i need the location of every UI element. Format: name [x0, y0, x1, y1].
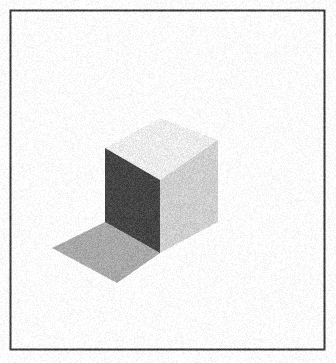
- figure-container: Shaded cube with cast shadow A three-dim…: [0, 0, 336, 363]
- cube-illustration-canvas: [0, 0, 336, 363]
